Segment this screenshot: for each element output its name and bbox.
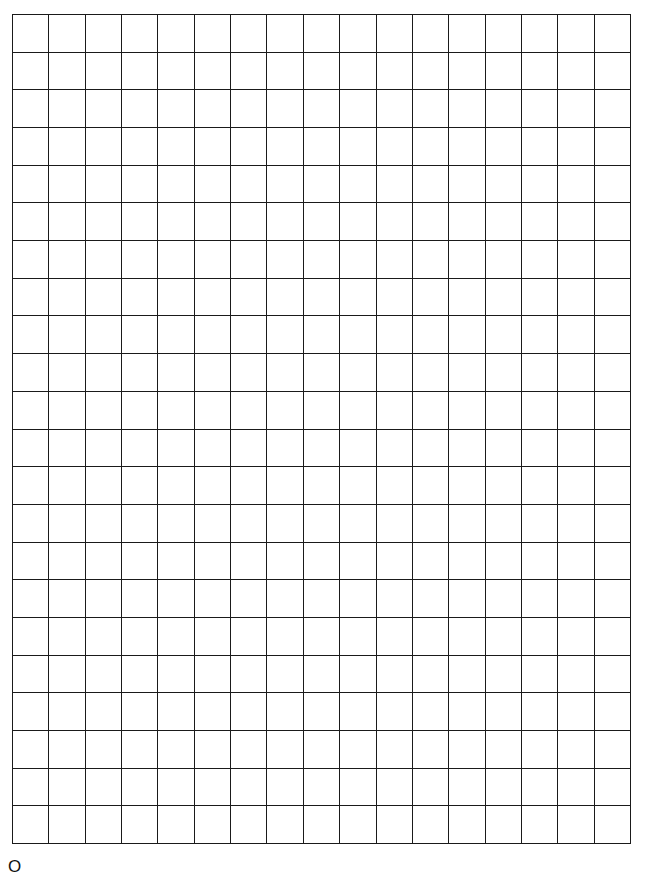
grid-cell <box>86 467 122 505</box>
grid-cell <box>304 430 340 468</box>
grid-cell <box>558 392 594 430</box>
grid-cell <box>158 693 194 731</box>
grid-cell <box>122 731 158 769</box>
grid-cell <box>522 316 558 354</box>
grid-cell <box>595 166 631 204</box>
grid-cell <box>595 15 631 53</box>
grid-cell <box>449 354 485 392</box>
grid-cell <box>231 505 267 543</box>
grid-cell <box>486 279 522 317</box>
grid-cell <box>267 392 303 430</box>
grid-cell <box>49 693 85 731</box>
grid-cell <box>13 580 49 618</box>
grid-cell <box>449 15 485 53</box>
grid-cell <box>267 769 303 807</box>
grid-cell <box>558 241 594 279</box>
grid-cell <box>486 656 522 694</box>
grid-cell <box>522 618 558 656</box>
grid-cell <box>304 166 340 204</box>
grid-cell <box>377 354 413 392</box>
grid-cell <box>195 806 231 844</box>
grid-cell <box>304 279 340 317</box>
grid-cell <box>267 90 303 128</box>
grid-cell <box>340 53 376 91</box>
grid-cell <box>486 580 522 618</box>
grid-cell <box>86 203 122 241</box>
grid-cell <box>158 279 194 317</box>
grid-cell <box>13 806 49 844</box>
grid-cell <box>340 392 376 430</box>
grid-cell <box>267 656 303 694</box>
grid-cell <box>231 467 267 505</box>
grid-cell <box>122 128 158 166</box>
grid-cell <box>231 731 267 769</box>
grid-cell <box>413 15 449 53</box>
grid-cell <box>122 15 158 53</box>
grid-cell <box>49 806 85 844</box>
grid-cell <box>195 316 231 354</box>
grid-cell <box>158 769 194 807</box>
grid-cell <box>595 505 631 543</box>
grid-cell <box>158 241 194 279</box>
grid-cell <box>340 806 376 844</box>
grid-cell <box>13 467 49 505</box>
grid-cell <box>413 316 449 354</box>
grid-cell <box>377 618 413 656</box>
grid-cell <box>340 543 376 581</box>
grid-cell <box>522 505 558 543</box>
grid-cell <box>231 354 267 392</box>
grid-cell <box>86 316 122 354</box>
grid-cell <box>377 166 413 204</box>
grid-cell <box>449 279 485 317</box>
grid-cell <box>595 693 631 731</box>
grid-cell <box>413 806 449 844</box>
grid-cell <box>267 467 303 505</box>
grid-cell <box>340 430 376 468</box>
grid-cell <box>486 90 522 128</box>
grid-cell <box>195 693 231 731</box>
grid-cell <box>340 15 376 53</box>
grid-cell <box>413 580 449 618</box>
grid-cell <box>231 618 267 656</box>
grid-cell <box>413 279 449 317</box>
grid-cell <box>340 203 376 241</box>
grid-cell <box>340 316 376 354</box>
grid-cell <box>413 241 449 279</box>
grid-cell <box>377 241 413 279</box>
grid-cell <box>304 505 340 543</box>
grid-cell <box>340 166 376 204</box>
grid-cell <box>486 505 522 543</box>
grid-cell <box>558 166 594 204</box>
grid-cell <box>267 580 303 618</box>
grid-cell <box>304 806 340 844</box>
grid-cell <box>304 53 340 91</box>
grid-cell <box>86 279 122 317</box>
grid-cell <box>595 543 631 581</box>
grid-cell <box>13 128 49 166</box>
grid-cell <box>267 128 303 166</box>
grid-cell <box>486 354 522 392</box>
grid-cell <box>558 53 594 91</box>
grid-cell <box>49 354 85 392</box>
grid-cell <box>377 806 413 844</box>
grid-cell <box>340 128 376 166</box>
grid-cell <box>377 15 413 53</box>
grid-cell <box>267 166 303 204</box>
grid-cell <box>449 656 485 694</box>
grid-cell <box>486 203 522 241</box>
grid-cell <box>340 656 376 694</box>
grid-cell <box>122 580 158 618</box>
grid-cell <box>122 543 158 581</box>
grid-cell <box>340 279 376 317</box>
grid-cell <box>413 53 449 91</box>
grid-cell <box>522 543 558 581</box>
grid-cell <box>340 467 376 505</box>
grid-cell <box>340 769 376 807</box>
grid-cell <box>86 580 122 618</box>
grid-cell <box>413 505 449 543</box>
grid-cell <box>449 392 485 430</box>
grid-cell <box>49 241 85 279</box>
grid-cell <box>595 90 631 128</box>
grid-cell <box>267 354 303 392</box>
grid-cell <box>267 316 303 354</box>
